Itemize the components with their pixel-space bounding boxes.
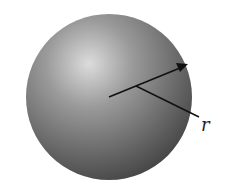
sphere-diagram: r bbox=[0, 0, 230, 185]
radius-label: r bbox=[201, 114, 211, 135]
